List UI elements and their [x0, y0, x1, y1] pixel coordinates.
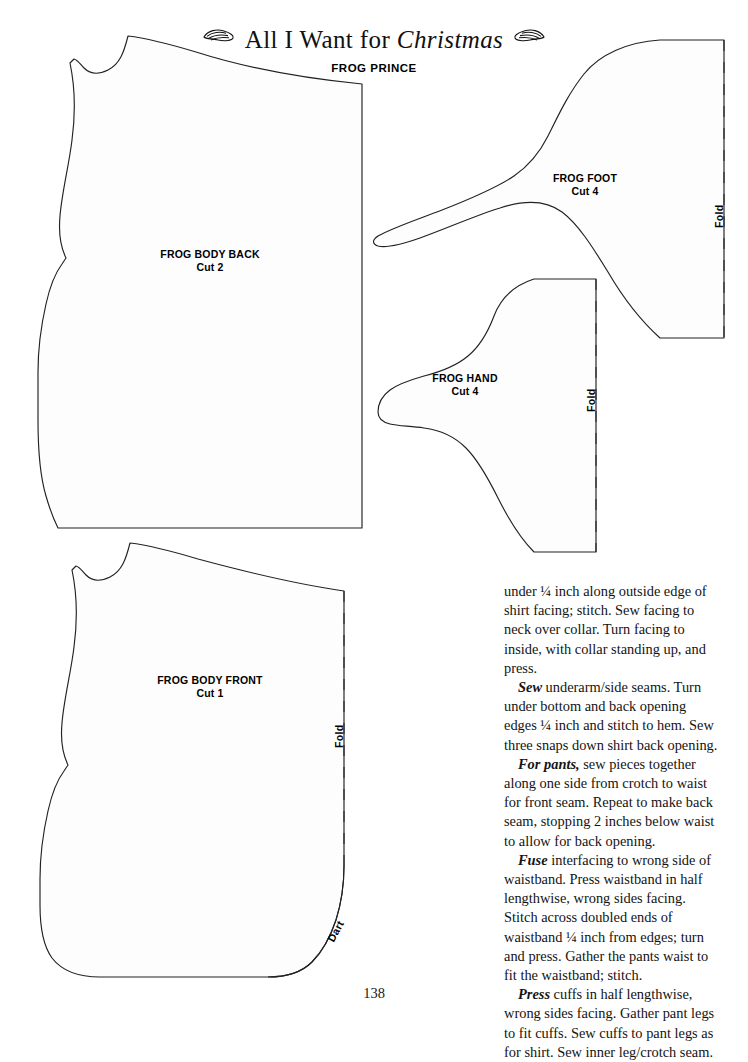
frog-hand-name: FROG HAND — [390, 372, 540, 385]
frog-body-back-outline — [38, 36, 362, 528]
frog-body-back-name: FROG BODY BACK — [115, 248, 305, 261]
frog-body-front-fold-label: Fold — [333, 725, 345, 748]
instruction-text-4: interfacing to wrong side of waistband. … — [504, 852, 711, 983]
frog-foot-fold-label: Fold — [713, 205, 725, 228]
instruction-paragraph-3: For pants, sew pieces together along one… — [504, 755, 722, 851]
frog-hand-outline — [378, 279, 596, 552]
instruction-lead-4: Fuse — [518, 852, 548, 868]
frog-hand-cut: Cut 4 — [390, 385, 540, 398]
frog-body-back-label: FROG BODY BACK Cut 2 — [115, 248, 305, 274]
frog-body-front-cut: Cut 1 — [110, 687, 310, 700]
frog-body-front-name: FROG BODY FRONT — [110, 674, 310, 687]
instruction-lead-2: Sew — [518, 679, 542, 695]
frog-body-back-cut: Cut 2 — [115, 261, 305, 274]
frog-foot-label: FROG FOOT Cut 4 — [505, 172, 665, 198]
frog-foot-name: FROG FOOT — [505, 172, 665, 185]
frog-body-front-outline — [40, 543, 344, 977]
frog-hand-fold-label: Fold — [585, 389, 597, 412]
frog-body-front-label: FROG BODY FRONT Cut 1 — [110, 674, 310, 700]
instruction-paragraph-1: under ¼ inch along outside edge of shirt… — [504, 582, 722, 678]
frog-hand-label: FROG HAND Cut 4 — [390, 372, 540, 398]
instruction-text-1: under ¼ inch along outside edge of shirt… — [504, 583, 707, 676]
frog-foot-cut: Cut 4 — [505, 185, 665, 198]
instruction-paragraph-2: Sew underarm/side seams. Turn under bott… — [504, 678, 722, 755]
instruction-paragraph-4: Fuse interfacing to wrong side of waistb… — [504, 851, 722, 985]
instruction-lead-3: For pants, — [518, 756, 580, 772]
page-number: 138 — [0, 985, 748, 1002]
